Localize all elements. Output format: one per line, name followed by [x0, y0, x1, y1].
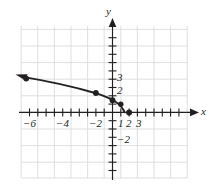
data-point	[93, 90, 99, 96]
x-tick-label-3: 3	[136, 118, 142, 129]
y-tick-label-2: 2	[117, 85, 123, 96]
x-tick-label-neg6: −6	[23, 118, 36, 129]
data-point	[23, 76, 29, 82]
data-point	[126, 109, 132, 115]
x-tick-label-neg2: −2	[89, 118, 102, 129]
y-tick-label-neg2: −2	[117, 134, 130, 145]
grid-lines	[21, 26, 187, 178]
data-point	[110, 97, 116, 103]
graph-figure: −6 −4 −2 1 2 3 3 2 −2 y x	[0, 0, 214, 192]
x-axis-arrowhead	[190, 109, 199, 117]
x-tick-label-1: 1	[118, 118, 124, 129]
coordinate-plane	[0, 0, 214, 192]
x-tick-label-2: 2	[126, 118, 132, 129]
x-axis-label: x	[201, 106, 206, 117]
y-axis-label: y	[106, 6, 111, 17]
x-tick-label-neg4: −4	[56, 118, 69, 129]
y-tick-label-3: 3	[117, 72, 123, 83]
axis-lines	[19, 24, 192, 180]
y-axis-arrowhead	[109, 18, 117, 27]
data-point	[118, 102, 123, 107]
